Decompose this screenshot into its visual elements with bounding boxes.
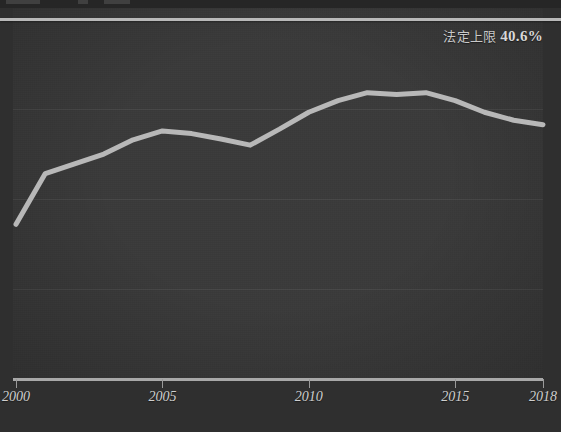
- x-tick-2018: [543, 379, 544, 388]
- x-tick-2000: [16, 379, 17, 388]
- x-tick-2005: [162, 379, 163, 388]
- series-line-chart: [0, 0, 561, 432]
- x-tick-label-2000: 2000: [2, 389, 30, 405]
- x-tick-label-2018: 2018: [529, 389, 557, 405]
- series-line-insurance-rate: [16, 93, 543, 225]
- x-tick-label-2015: 2015: [441, 389, 469, 405]
- x-axis-line: [13, 378, 543, 381]
- x-tick-2010: [309, 379, 310, 388]
- chart-screenshot: 法定上限 40.6% 20002005201020152018: [0, 0, 561, 432]
- x-tick-label-2005: 2005: [148, 389, 176, 405]
- x-tick-label-2010: 2010: [295, 389, 323, 405]
- x-tick-2015: [455, 379, 456, 388]
